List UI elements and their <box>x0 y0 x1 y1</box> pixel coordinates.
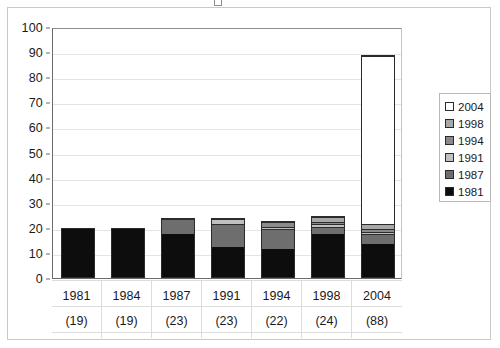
stacked-bar[interactable] <box>211 218 245 278</box>
x-axis-total-label: (88) <box>352 314 402 328</box>
y-axis-tick-mark <box>46 78 50 79</box>
bar-slot <box>253 29 303 278</box>
y-axis-tick-mark <box>46 28 50 29</box>
legend-item[interactable]: 1991 <box>440 149 490 166</box>
bar-segment <box>362 244 394 277</box>
y-axis-tick-mark <box>46 178 50 179</box>
legend-item-label: 1987 <box>458 169 484 181</box>
plot-area-wrapper <box>52 28 402 279</box>
x-axis-year-label: 1987 <box>152 289 201 303</box>
x-axis-total-label: (19) <box>52 314 101 328</box>
bar-segment <box>312 234 344 277</box>
legend-item[interactable]: 1987 <box>440 166 490 183</box>
x-axis-total-label: (19) <box>102 314 151 328</box>
bar-slot <box>203 29 253 278</box>
x-axis-year-label: 1994 <box>252 289 301 303</box>
x-axis-year-label: 2004 <box>352 289 402 303</box>
y-axis-tick-label: 40 <box>29 172 43 186</box>
bar-segment <box>62 229 94 277</box>
legend-swatch-icon <box>445 170 454 179</box>
x-axis-total-label: (24) <box>302 314 351 328</box>
legend-item-label: 2004 <box>458 101 484 113</box>
stacked-bar[interactable] <box>261 221 295 278</box>
plot-area <box>52 28 402 279</box>
bar-segment <box>212 247 244 277</box>
stacked-bar[interactable] <box>361 55 395 278</box>
bar-slot <box>53 29 103 278</box>
bar-slot <box>103 29 153 278</box>
chart-figure: 0102030405060708090100 1981(19)1984(19)1… <box>0 0 500 348</box>
legend-item[interactable]: 1998 <box>440 115 490 132</box>
x-axis-labels: 1981(19)1984(19)1987(23)1991(23)1994(22)… <box>52 280 402 338</box>
bar-slot <box>153 29 203 278</box>
x-axis-label-cell: 1984(19) <box>102 280 152 338</box>
bar-segment <box>262 249 294 277</box>
legend-swatch-icon <box>445 136 454 145</box>
stacked-bar[interactable] <box>111 228 145 278</box>
legend-swatch-icon <box>445 153 454 162</box>
y-axis-tick-label: 90 <box>29 46 43 60</box>
bar-group <box>53 29 401 278</box>
bar-segment <box>362 234 394 244</box>
bar-segment <box>362 56 394 224</box>
y-axis-tick-mark <box>46 103 50 104</box>
legend-swatch-icon <box>445 187 454 196</box>
stacked-bar[interactable] <box>61 228 95 278</box>
bar-slot <box>303 29 353 278</box>
legend-item[interactable]: 1994 <box>440 132 490 149</box>
y-axis-tick-mark <box>46 203 50 204</box>
y-axis-tick-mark <box>46 228 50 229</box>
legend-swatch-icon <box>445 102 454 111</box>
stacked-bar[interactable] <box>161 218 195 278</box>
x-axis-label-cell: 1991(23) <box>202 280 252 338</box>
legend-swatch-icon <box>445 119 454 128</box>
clipped-marker-icon <box>214 0 222 6</box>
y-axis-tick-mark <box>46 279 50 280</box>
x-axis-year-label: 1981 <box>52 289 101 303</box>
y-axis: 0102030405060708090100 <box>0 28 50 279</box>
bar-segment <box>312 227 344 235</box>
x-axis-year-label: 1998 <box>302 289 351 303</box>
y-axis-tick-label: 60 <box>29 121 43 135</box>
legend-item-label: 1991 <box>458 152 484 164</box>
y-axis-tick-label: 70 <box>29 96 43 110</box>
bar-segment <box>162 234 194 277</box>
y-axis-tick-mark <box>46 53 50 54</box>
y-axis-tick-label: 0 <box>36 272 43 286</box>
x-axis-year-label: 1984 <box>102 289 151 303</box>
x-axis-label-cell: 1998(24) <box>302 280 352 338</box>
x-axis-label-cell: 2004(88) <box>352 280 402 338</box>
bar-segment <box>262 229 294 249</box>
x-axis-label-cell: 1981(19) <box>52 280 102 338</box>
y-axis-tick-label: 10 <box>29 247 43 261</box>
legend-item-label: 1994 <box>458 135 484 147</box>
y-axis-tick-mark <box>46 153 50 154</box>
legend: 200419981994199119871981 <box>439 93 491 202</box>
legend-item[interactable]: 1981 <box>440 183 490 200</box>
bar-segment <box>212 224 244 247</box>
x-axis-label-cell: 1994(22) <box>252 280 302 338</box>
y-axis-tick-mark <box>46 128 50 129</box>
y-axis-tick-label: 50 <box>29 147 43 161</box>
x-axis-total-label: (22) <box>252 314 301 328</box>
y-axis-tick-label: 100 <box>22 21 43 35</box>
bar-segment <box>162 219 194 234</box>
y-axis-tick-label: 30 <box>29 197 43 211</box>
x-axis-total-label: (23) <box>202 314 251 328</box>
y-axis-tick-label: 20 <box>29 222 43 236</box>
legend-item[interactable]: 2004 <box>440 98 490 115</box>
x-axis-total-label: (23) <box>152 314 201 328</box>
legend-item-label: 1998 <box>458 118 484 130</box>
x-axis-label-cell: 1987(23) <box>152 280 202 338</box>
legend-item-label: 1981 <box>458 186 484 198</box>
bar-slot <box>353 29 403 278</box>
stacked-bar[interactable] <box>311 216 345 278</box>
y-axis-tick-label: 80 <box>29 71 43 85</box>
y-axis-tick-mark <box>46 253 50 254</box>
bar-segment <box>112 229 144 277</box>
x-axis-year-label: 1991 <box>202 289 251 303</box>
